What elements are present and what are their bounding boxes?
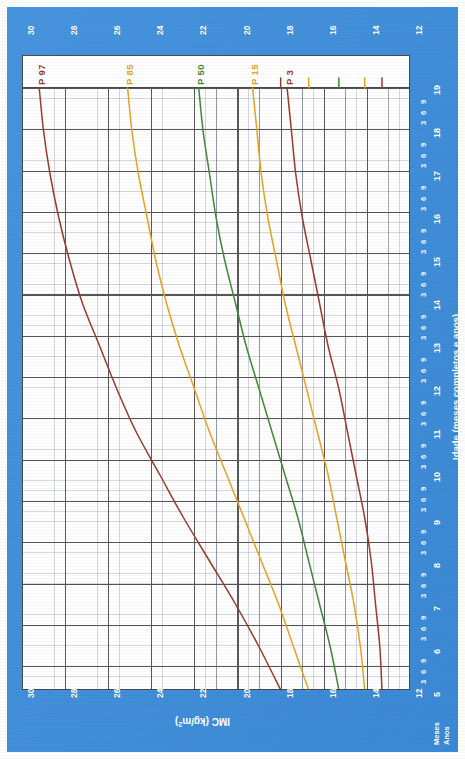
bmi-tick-top-14: 14 <box>371 26 381 35</box>
bmi-tick-top-22: 22 <box>198 26 208 35</box>
age-tick-month-12-9: 9 <box>419 401 428 405</box>
age-tick-month-7-9: 9 <box>419 616 428 620</box>
age-tick-month-15-6: 6 <box>419 282 428 286</box>
age-tick-year-13: 13 <box>432 343 442 353</box>
age-tick-year-14: 14 <box>432 300 442 310</box>
age-tick-month-14-6: 6 <box>419 325 428 329</box>
age-tick-year-10: 10 <box>432 472 442 482</box>
age-tick-month-18-9: 9 <box>419 143 428 147</box>
age-tick-year-5: 5 <box>432 692 442 697</box>
age-tick-month-8-9: 9 <box>419 573 428 577</box>
bmi-tick-bottom-22: 22 <box>198 689 208 698</box>
age-tick-month-16-9: 9 <box>419 229 428 233</box>
age-tick-month-9-9: 9 <box>419 530 428 534</box>
age-tick-year-18: 18 <box>432 128 442 138</box>
bmi-tick-top-18: 18 <box>285 26 295 35</box>
screenshot-root: P 97P 85P 50P 15P 3 30282624222018161412… <box>0 0 465 759</box>
curve-label-p15: P 15 <box>249 64 260 85</box>
age-tick-month-13-3: 3 <box>419 379 428 383</box>
bmi-tick-bottom-20: 20 <box>242 689 252 698</box>
age-tick-month-7-6: 6 <box>419 626 428 630</box>
age-tick-month-16-6: 6 <box>419 239 428 243</box>
age-tick-month-10-3: 3 <box>419 508 428 512</box>
age-tick-month-11-6: 6 <box>419 454 428 458</box>
months-axis-label: Meses <box>432 722 441 745</box>
bmi-growth-chart <box>22 55 410 690</box>
plot-area <box>22 55 410 690</box>
bmi-tick-bottom-14: 14 <box>371 689 381 698</box>
bmi-tick-top-28: 28 <box>69 26 79 35</box>
age-tick-month-6-3: 3 <box>419 680 428 684</box>
bmi-tick-top-20: 20 <box>242 26 252 35</box>
age-tick-month-15-9: 9 <box>419 272 428 276</box>
age-tick-month-7-3: 3 <box>419 637 428 641</box>
bmi-tick-top-16: 16 <box>328 26 338 35</box>
age-tick-month-6-9: 9 <box>419 659 428 663</box>
bmi-tick-bottom-28: 28 <box>69 689 79 698</box>
age-tick-year-12: 12 <box>432 386 442 396</box>
bmi-tick-bottom-30: 30 <box>26 689 36 698</box>
age-tick-month-18-6: 6 <box>419 153 428 157</box>
bmi-axis-title: IMC (kg/m2) <box>175 716 230 728</box>
age-tick-month-17-3: 3 <box>419 207 428 211</box>
age-tick-month-12-6: 6 <box>419 411 428 415</box>
age-tick-year-6: 6 <box>432 649 442 654</box>
age-tick-month-19-9: 9 <box>419 100 428 104</box>
age-tick-month-13-6: 6 <box>419 368 428 372</box>
bmi-tick-top-26: 26 <box>112 26 122 35</box>
years-axis-label: Anos <box>442 726 451 745</box>
curve-p85 <box>128 78 309 690</box>
curve-label-p97: P 97 <box>36 64 47 85</box>
age-tick-month-14-3: 3 <box>419 336 428 340</box>
age-tick-month-19-3: 3 <box>419 121 428 125</box>
age-tick-year-17: 17 <box>432 171 442 181</box>
age-tick-year-8: 8 <box>432 563 442 568</box>
bmi-tick-bottom-16: 16 <box>328 689 338 698</box>
age-tick-year-9: 9 <box>432 520 442 525</box>
curve-p3 <box>287 78 382 690</box>
age-tick-year-15: 15 <box>432 257 442 267</box>
age-tick-year-16: 16 <box>432 214 442 224</box>
bmi-tick-bottom-26: 26 <box>112 689 122 698</box>
curve-p97 <box>39 78 280 690</box>
bmi-tick-top-24: 24 <box>155 26 165 35</box>
bmi-tick-bottom-18: 18 <box>285 689 295 698</box>
age-tick-month-6-6: 6 <box>419 669 428 673</box>
curve-p50 <box>199 78 339 690</box>
bmi-tick-bottom-12: 12 <box>414 689 424 698</box>
age-tick-month-14-9: 9 <box>419 315 428 319</box>
age-tick-month-18-3: 3 <box>419 164 428 168</box>
age-axis-title: Idade (meses completos e anos) <box>450 314 461 460</box>
age-tick-month-9-6: 6 <box>419 540 428 544</box>
age-tick-month-15-3: 3 <box>419 293 428 297</box>
bmi-tick-top-30: 30 <box>26 26 36 35</box>
age-tick-year-11: 11 <box>432 429 442 439</box>
age-tick-year-7: 7 <box>432 606 442 611</box>
age-tick-month-9-3: 3 <box>419 551 428 555</box>
age-tick-month-13-9: 9 <box>419 358 428 362</box>
curve-p15 <box>253 78 365 690</box>
age-tick-month-17-6: 6 <box>419 196 428 200</box>
age-tick-month-11-3: 3 <box>419 465 428 469</box>
age-tick-month-10-9: 9 <box>419 487 428 491</box>
age-tick-month-17-9: 9 <box>419 186 428 190</box>
bmi-tick-bottom-24: 24 <box>155 689 165 698</box>
age-tick-year-19: 19 <box>432 85 442 95</box>
bmi-tick-top-12: 12 <box>414 26 424 35</box>
curve-label-p50: P 50 <box>195 64 206 85</box>
age-tick-month-19-6: 6 <box>419 110 428 114</box>
age-tick-month-10-6: 6 <box>419 497 428 501</box>
curve-label-p85: P 85 <box>124 64 135 85</box>
age-tick-month-11-9: 9 <box>419 444 428 448</box>
age-tick-month-8-3: 3 <box>419 594 428 598</box>
curve-label-p3: P 3 <box>284 70 295 85</box>
age-tick-month-16-3: 3 <box>419 250 428 254</box>
age-tick-month-8-6: 6 <box>419 583 428 587</box>
percentile-curves <box>22 55 410 690</box>
age-tick-month-12-3: 3 <box>419 422 428 426</box>
